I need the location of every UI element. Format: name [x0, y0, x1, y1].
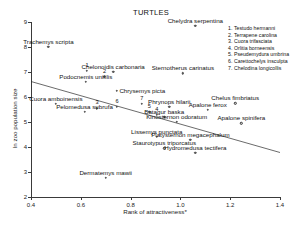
- y-tick-label: 7: [24, 69, 27, 75]
- data-point-label: Platysternon megacephalum: [151, 132, 229, 138]
- data-point-label: Apalone spinifera: [217, 115, 265, 121]
- data-point-number: 3: [95, 100, 98, 106]
- data-point-label: Pelomedusa subrufa: [56, 104, 113, 110]
- y-tick-label: 2: [24, 194, 27, 200]
- data-point-number: 6: [115, 99, 118, 105]
- legend-item: 6.Carettochelys insculpta: [228, 58, 290, 65]
- data-point-number: 5: [148, 104, 151, 110]
- legend-item-label: Terrapene carolina: [234, 32, 277, 38]
- legend-item: 5.Pseudemydura umbrina: [228, 51, 290, 58]
- legend-item-label: Chelodina longicollis: [234, 65, 281, 71]
- legend-item: 2.Terrapene carolina: [228, 32, 290, 39]
- x-tick: [280, 197, 281, 200]
- y-tick-label: 3: [24, 169, 27, 175]
- data-point-number: 2: [103, 69, 106, 75]
- x-tick-label: 1.2: [226, 202, 234, 208]
- data-point-label: Hydromedusa tectifera: [164, 145, 226, 151]
- data-point-label: Chrysemys picta: [119, 88, 165, 94]
- legend-item-label: Pseudemydura umbrina: [234, 51, 289, 57]
- data-point-label: Apalone ferox: [189, 102, 227, 108]
- y-tick-label: 5: [24, 119, 27, 125]
- data-point-label: Sternotherus carinatus: [152, 65, 214, 71]
- legend-item-label: Cuora trifasciata: [234, 38, 272, 44]
- x-tick: [180, 197, 181, 200]
- data-point-number: 4: [155, 107, 158, 113]
- x-axis-line: [31, 197, 280, 198]
- species-legend: 1.Testudo hermanni2.Terrapene carolina3.…: [228, 25, 290, 71]
- data-point-label: Dermatemys mawii: [79, 170, 132, 176]
- legend-item: 7.Chelodina longicollis: [228, 65, 290, 72]
- data-point-number: 1: [86, 63, 89, 69]
- data-point-label: Trachemys scripta: [23, 39, 73, 45]
- y-axis-title: ln zoo population size: [11, 88, 18, 148]
- y-tick-label: 4: [24, 144, 27, 150]
- x-tick-label: 0.6: [77, 202, 85, 208]
- legend-item-label: Carettochelys insculpta: [234, 58, 288, 64]
- data-point-label: Chelydra serpentina: [168, 18, 223, 24]
- legend-item: 4.Orlitia borneensis: [228, 45, 290, 52]
- turtles-scatter-figure: TURTLES 23456789 0.40.60.81.01.21.4 Chel…: [0, 0, 292, 226]
- x-tick: [230, 197, 231, 200]
- legend-item-label: Testudo hermanni: [234, 25, 275, 31]
- x-tick: [131, 197, 132, 200]
- legend-item: 3.Cuora trifasciata: [228, 38, 290, 45]
- data-point-label: Chelonoidis carbonaria: [82, 64, 145, 70]
- y-tick-label: 9: [24, 19, 27, 25]
- x-axis-title: Rank of attractiveness*: [123, 208, 187, 215]
- x-tick: [81, 197, 82, 200]
- y-tick-label: 6: [24, 94, 27, 100]
- chart-title: TURTLES: [133, 8, 169, 17]
- legend-item: 1.Testudo hermanni: [228, 25, 290, 32]
- data-point-label: Phrynops hilarii: [148, 99, 190, 105]
- x-tick-label: 0.4: [27, 202, 35, 208]
- x-tick: [31, 197, 32, 200]
- data-point-number: 7: [140, 96, 143, 102]
- x-tick-label: 1.4: [276, 202, 284, 208]
- legend-item-label: Orlitia borneensis: [234, 45, 274, 51]
- data-point-label: Cuora amboinensis: [29, 96, 82, 102]
